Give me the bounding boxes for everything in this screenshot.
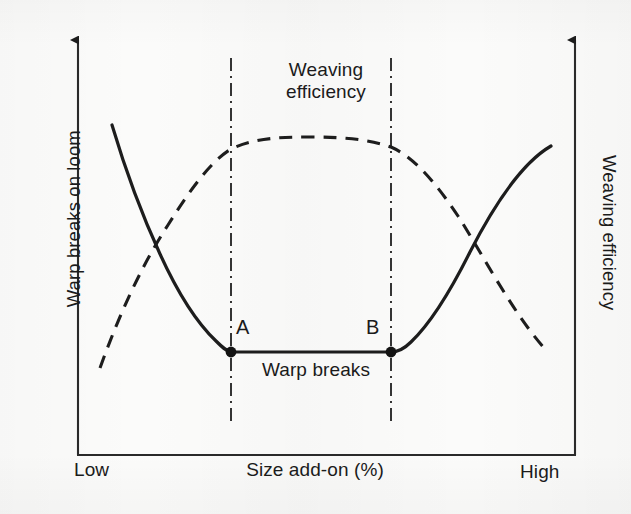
x-axis-low-label: Low xyxy=(74,459,109,481)
marker-point-b xyxy=(386,347,397,358)
x-axis-high-label: High xyxy=(520,461,559,483)
weaving-efficiency-curve xyxy=(100,137,545,368)
left-axis-label: Warp breaks on loom xyxy=(63,109,84,329)
weaving-efficiency-annotation: Weaving efficiency xyxy=(246,59,406,103)
chart-figure: Warp breaks on loom Weaving efficiency W… xyxy=(0,0,631,514)
marker-point-a xyxy=(226,347,237,358)
right-axis-label: Weaving efficiency xyxy=(598,123,619,343)
x-axis-title: Size add-on (%) xyxy=(200,459,430,481)
point-a-label: A xyxy=(236,316,249,339)
point-b-label: B xyxy=(366,316,379,339)
warp-breaks-annotation: Warp breaks xyxy=(226,359,406,381)
warp-breaks-curve xyxy=(112,125,551,352)
